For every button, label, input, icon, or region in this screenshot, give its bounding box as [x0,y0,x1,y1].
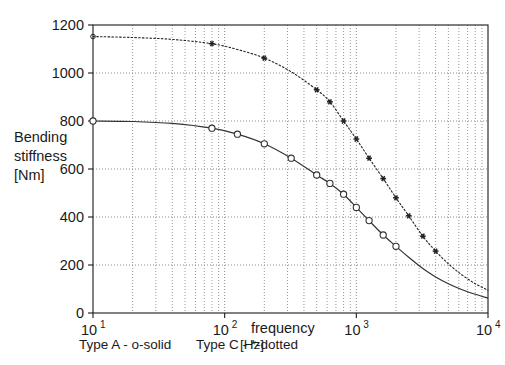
x-tick-label: 10 [213,322,229,338]
y-axis-label-line-1: Bending [14,129,67,145]
data-point-marker-type-a [393,243,399,249]
legend-entry-type-c: Type C - *-dotted [196,337,298,352]
data-point-marker-type-a [340,191,346,197]
y-tick-label: 1000 [52,65,84,81]
y-tick-label: 1200 [52,17,84,33]
data-point-marker-type-a [90,118,96,124]
y-axis-label-line-2: stiffness [14,148,67,164]
legend-entry-type-a: Type A - o-solid [79,337,171,352]
data-point-marker-type-a [380,232,386,238]
data-point-marker-type-a [288,155,294,161]
y-axis-label-line-3: [Nm] [14,167,45,183]
x-tick-exponent: 1 [100,319,106,330]
x-tick-label: 10 [476,322,492,338]
data-point-marker-type-a [261,141,267,147]
x-tick-exponent: 3 [363,319,369,330]
x-tick-label: 10 [344,322,360,338]
data-point-marker-type-a [366,218,372,224]
data-point-marker-type-a [353,204,359,210]
data-point-marker-type-a [314,172,320,178]
x-axis-label: frequency [251,320,315,336]
data-point-marker-type-a [234,131,240,137]
y-tick-label: 400 [60,209,84,225]
data-point-marker-type-a [209,125,215,131]
y-tick-label: 0 [76,305,84,321]
x-tick-exponent: 4 [495,319,501,330]
y-tick-label: 800 [60,113,84,129]
bending-stiffness-chart: 020040060080010001200 101102103104 Bendi… [0,0,505,365]
x-tick-label: 10 [81,322,97,338]
y-tick-label: 200 [60,257,84,273]
x-tick-exponent: 2 [232,319,238,330]
chart-figure: 020040060080010001200 101102103104 Bendi… [0,0,505,365]
data-point-marker-type-a [327,180,333,186]
